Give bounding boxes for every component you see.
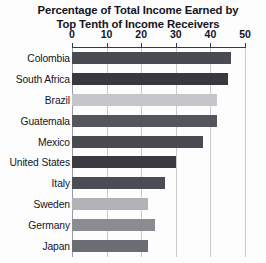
x-axis-tick-labels: 01020304050 (0, 28, 266, 42)
bar-mexico (72, 136, 203, 148)
bar-sweden (72, 198, 148, 210)
category-label-mexico: Mexico (38, 136, 70, 147)
category-label-colombia: Colombia (27, 53, 70, 64)
x-tick-label-30: 30 (170, 28, 182, 40)
bar-colombia (72, 52, 231, 64)
category-label-guatemala: Guatemala (21, 115, 70, 126)
category-label-germany: Germany (28, 219, 70, 230)
chart-title-line-1: Percentage of Total Income Earned by (30, 4, 246, 18)
bar-row: Sweden (0, 194, 266, 215)
bar-row: Germany (0, 214, 266, 235)
x-tick-label-0: 0 (69, 28, 75, 40)
bar-brazil (72, 94, 217, 106)
chart-title: Percentage of Total Income Earned by Top… (30, 4, 246, 31)
category-label-south-africa: South Africa (16, 74, 70, 85)
category-label-sweden: Sweden (33, 198, 70, 209)
x-tick-label-10: 10 (101, 28, 113, 40)
bar-italy (72, 177, 165, 189)
x-tick-label-20: 20 (135, 28, 147, 40)
category-label-italy: Italy (52, 178, 70, 189)
x-tick-label-50: 50 (239, 28, 251, 40)
bar-rows: ColombiaSouth AfricaBrazilGuatemalaMexic… (0, 48, 266, 257)
bar-chart: Percentage of Total Income Earned by Top… (0, 0, 266, 263)
bar-row: United States (0, 152, 266, 173)
category-label-united-states: United States (9, 157, 70, 168)
bar-row: Mexico (0, 131, 266, 152)
bar-united-states (72, 156, 176, 168)
bar-row: South Africa (0, 69, 266, 90)
x-tick-label-40: 40 (205, 28, 217, 40)
bar-row: Guatemala (0, 110, 266, 131)
bar-row: Brazil (0, 90, 266, 111)
bar-row: Japan (0, 235, 266, 256)
category-label-japan: Japan (42, 240, 70, 251)
bar-row: Italy (0, 173, 266, 194)
category-label-brazil: Brazil (45, 94, 70, 105)
bar-guatemala (72, 115, 217, 127)
bar-row: Colombia (0, 48, 266, 69)
bar-south-africa (72, 73, 228, 85)
bar-germany (72, 219, 155, 231)
bar-japan (72, 240, 148, 252)
